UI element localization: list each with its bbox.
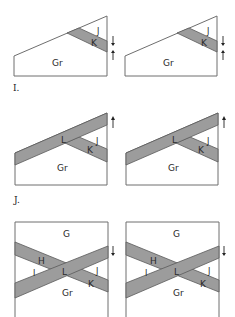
label-h: H [150, 256, 157, 266]
label-l: L [174, 267, 179, 277]
converging-arrows-icon [111, 36, 115, 60]
label-gr: Gr [52, 58, 63, 68]
panel-k-left: G H I L J K Gr [15, 222, 115, 317]
label-j: J [206, 137, 209, 146]
up-arrow-icon [111, 116, 115, 128]
converging-arrows-icon [221, 36, 225, 60]
up-arrow-icon [222, 116, 226, 128]
down-arrow-icon [111, 246, 115, 256]
label-g: G [173, 229, 180, 239]
panel-i-left: Gr J K [14, 16, 115, 76]
figure-label-j: J. [13, 195, 20, 205]
label-gr: Gr [57, 163, 68, 173]
label-j: J [207, 267, 210, 276]
label-j: J [95, 267, 98, 276]
label-gr: Gr [173, 288, 184, 298]
label-j: J [96, 27, 99, 36]
panel-j-right: Gr L J K [126, 113, 226, 185]
panel-k-right: G H I L J K Gr [126, 222, 226, 317]
label-gr: Gr [168, 163, 179, 173]
label-j: J [95, 137, 98, 146]
figure-label-i: I. [13, 83, 20, 93]
label-gr: Gr [62, 288, 73, 298]
down-arrow-icon [222, 246, 226, 256]
geological-cross-sections: Gr J K I. Gr J K Gr L J K [0, 0, 235, 317]
label-l: L [62, 267, 67, 277]
label-l: L [61, 135, 66, 145]
label-g: G [63, 229, 70, 239]
label-gr: Gr [163, 58, 174, 68]
panel-j-left: Gr L J K [15, 113, 115, 185]
panel-i-right: Gr J K [125, 16, 225, 76]
label-i: I [145, 269, 147, 278]
label-h: H [38, 256, 45, 266]
label-i: I [33, 269, 35, 278]
label-j: J [206, 27, 209, 36]
label-l: L [172, 135, 177, 145]
